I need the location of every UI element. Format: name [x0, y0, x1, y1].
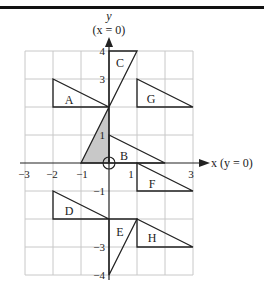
y-tick-neg1: −1 [93, 185, 105, 197]
x-axis-arrow-icon [199, 159, 210, 167]
x-axis-label: x (y = 0) [211, 156, 253, 170]
y-tick-neg3: −3 [93, 241, 105, 253]
x-tick-3: 3 [188, 168, 194, 180]
x-tick-neg1: −1 [76, 168, 88, 180]
y-tick-1: 1 [100, 129, 106, 141]
y-tick-4: 4 [100, 45, 106, 57]
label-d: D [65, 204, 74, 218]
x-tick-1: 1 [128, 168, 134, 180]
y-tick-neg4: −4 [93, 269, 105, 281]
y-axis-sublabel: (x = 0) [93, 23, 126, 37]
x-tick-neg2: −2 [46, 168, 58, 180]
coordinate-diagram: y (x = 0) x (y = 0) −3 −2 −1 1 3 4 3 1 −… [0, 0, 264, 294]
y-tick-3: 3 [100, 73, 106, 85]
y-axis-arrow-icon [105, 37, 113, 47]
x-tick-neg3: −3 [18, 168, 30, 180]
label-c: C [116, 56, 124, 70]
label-g: G [147, 92, 156, 106]
label-b: B [120, 149, 128, 163]
label-h: H [148, 231, 157, 245]
label-a: A [65, 93, 74, 107]
label-f: F [149, 177, 156, 191]
label-e: E [116, 225, 123, 239]
y-axis-label: y [105, 9, 112, 23]
